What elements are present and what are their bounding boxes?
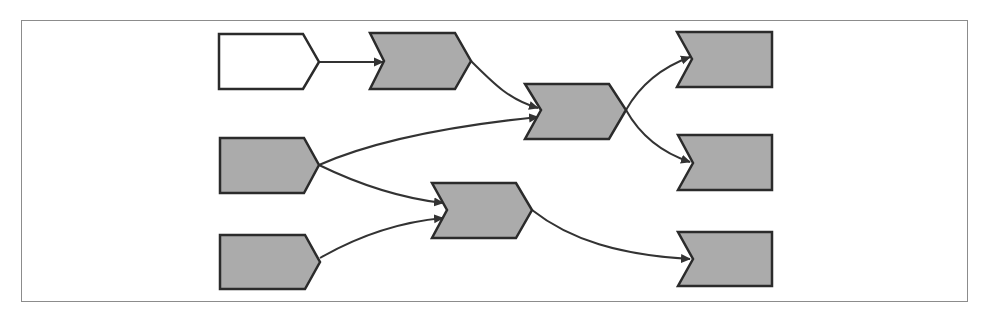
nodes — [219, 32, 772, 289]
node-n9-notched-rect — [678, 232, 772, 286]
node-n7-notched-rect — [677, 32, 772, 87]
edge-n3-n6 — [319, 165, 443, 203]
edge-n4-n6 — [320, 218, 443, 258]
node-n4-pentagon — [220, 235, 320, 289]
node-n3-pentagon — [220, 138, 319, 193]
node-n8-notched-rect — [678, 135, 772, 190]
edge-n3-n5 — [319, 117, 538, 165]
flow-diagram — [0, 0, 989, 312]
node-n6-chevron — [432, 183, 532, 238]
node-n2-chevron — [370, 33, 471, 89]
node-n5-chevron — [525, 84, 626, 139]
node-n1-pentagon-white — [219, 34, 319, 89]
edge-n6-n9 — [532, 210, 690, 259]
